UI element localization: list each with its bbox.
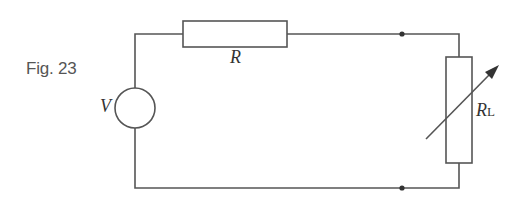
load-resistor-rl xyxy=(446,57,472,163)
resistor-r xyxy=(183,21,287,47)
junction-dot-bottom xyxy=(399,185,404,190)
load-resistor-subscript: L xyxy=(487,104,495,119)
voltage-label: V xyxy=(100,96,111,117)
circuit-diagram xyxy=(0,0,524,204)
voltage-source xyxy=(115,88,155,128)
figure-label: Fig. 23 xyxy=(26,59,77,79)
junction-dot-top xyxy=(399,31,404,36)
wire-top-right xyxy=(287,34,459,57)
load-resistor-label: RL xyxy=(476,100,495,121)
resistor-label: R xyxy=(230,47,241,68)
load-resistor-symbol: R xyxy=(476,100,487,120)
wire-top-left xyxy=(135,34,183,88)
wire-bottom xyxy=(135,128,459,188)
